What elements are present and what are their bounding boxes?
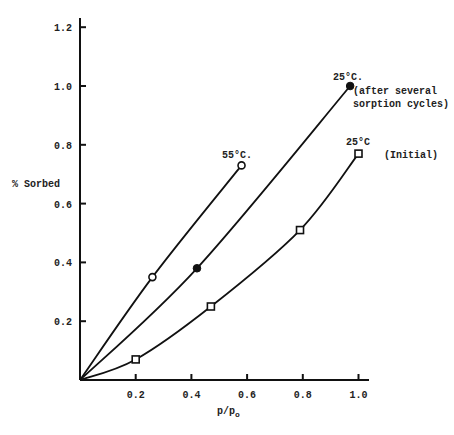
curve-label: 25°C. xyxy=(333,72,363,83)
y-tick-label: 0.8 xyxy=(54,141,72,152)
data-markers xyxy=(132,82,362,363)
curve-label: sorption cycles) xyxy=(353,99,449,110)
x-tick-label: 0.6 xyxy=(238,390,256,401)
curve-filled-circle xyxy=(80,86,350,380)
curve-label: 55°C. xyxy=(222,150,252,161)
x-tick-label: 0.2 xyxy=(127,390,145,401)
open-square-marker xyxy=(132,356,139,363)
x-axis-label: p/po xyxy=(217,406,240,419)
open-circle-marker xyxy=(238,162,245,169)
sorption-isotherm-chart: 0.20.40.60.81.01.2 0.20.40.60.81.0 55°C.… xyxy=(0,0,454,435)
y-tick-label: 0.6 xyxy=(54,200,72,211)
y-axis-label: % Sorbed xyxy=(12,179,60,190)
x-ticks: 0.20.40.60.81.0 xyxy=(127,374,368,401)
curve-labels: 55°C.25°C.(after severalsorption cycles)… xyxy=(222,72,449,161)
curves xyxy=(80,86,359,380)
y-tick-label: 1.0 xyxy=(54,82,72,93)
open-square-marker xyxy=(207,303,214,310)
curve-label: 25°C xyxy=(346,137,370,148)
y-tick-label: 0.4 xyxy=(54,258,72,269)
open-square-marker xyxy=(297,227,304,234)
x-tick-label: 0.4 xyxy=(182,390,200,401)
curve-open-square xyxy=(80,154,359,380)
curve-label: (Initial) xyxy=(384,150,438,161)
open-square-marker xyxy=(355,150,362,157)
y-ticks: 0.20.40.60.81.01.2 xyxy=(54,23,86,328)
x-tick-label: 1.0 xyxy=(350,390,368,401)
open-circle-marker xyxy=(149,274,156,281)
y-tick-label: 0.2 xyxy=(54,317,72,328)
y-tick-label: 1.2 xyxy=(54,23,72,34)
curve-open-circle xyxy=(80,165,242,380)
curve-label: (after several xyxy=(353,86,437,97)
filled-circle-marker xyxy=(193,264,201,272)
x-tick-label: 0.8 xyxy=(294,390,312,401)
